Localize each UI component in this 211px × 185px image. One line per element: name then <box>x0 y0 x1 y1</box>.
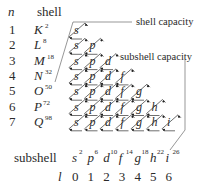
shell-capacity: 2 <box>45 22 49 30</box>
subshell-capacity: 22 <box>157 148 165 156</box>
shell-n-value: 2 <box>9 37 16 52</box>
shell-letter: P <box>33 99 42 114</box>
orbital-label: i <box>167 115 170 129</box>
subshell-column: d102 <box>103 148 118 184</box>
orbital-label: f <box>121 100 126 114</box>
orbital-label: d <box>105 84 112 98</box>
l-value: 4 <box>134 169 141 184</box>
subshell-capacity: 6 <box>95 148 99 156</box>
orbital-label: s <box>74 69 79 83</box>
orbital-grid: sspspdspdfspdfgspdfghspdfghi <box>69 23 181 131</box>
l-row-label: l <box>58 169 62 184</box>
subshell-row-label: subshell <box>14 150 57 165</box>
orbital-label: s <box>74 23 79 37</box>
orbital-label: d <box>105 115 112 129</box>
subshell-capacity: 2 <box>79 148 83 156</box>
orbital-label: f <box>121 69 126 83</box>
orbital-label: g <box>136 84 142 98</box>
subshell-letter: s <box>72 150 77 165</box>
orbital-label: p <box>89 54 96 68</box>
orbital-label: g <box>136 115 142 129</box>
l-value: 5 <box>150 169 157 184</box>
orbital-label: f <box>121 84 126 98</box>
subshell-letter: p <box>87 150 95 165</box>
orbital-label: d <box>105 54 112 68</box>
subshell-letter: f <box>119 150 125 165</box>
subshell-capacity: 10 <box>110 148 118 156</box>
subshell-column: i266 <box>166 148 181 184</box>
orbital-label: p <box>89 100 96 114</box>
l-value: 2 <box>103 169 110 184</box>
l-value: 3 <box>119 169 126 184</box>
l-value: 0 <box>72 169 79 184</box>
orbital-label: p <box>89 69 96 83</box>
shell-row: 6P72 <box>9 99 51 114</box>
subshell-footer: s20p61d102f143g184h225i266 <box>72 148 180 184</box>
shell-row: 1K2 <box>9 22 49 37</box>
shell-row: 7Q98 <box>9 114 53 129</box>
orbital-label: f <box>121 115 126 129</box>
shell-letter: M <box>33 53 46 68</box>
orbital-label: d <box>105 69 112 83</box>
shell-capacity: 98 <box>45 114 53 122</box>
subshell-column: f143 <box>119 148 134 184</box>
orbital-label: s <box>74 100 79 114</box>
shell-letter: O <box>34 83 44 98</box>
orbital-label: s <box>74 38 79 52</box>
shell-row: 4N32 <box>9 68 53 83</box>
orbital-label: p <box>89 38 96 52</box>
shell-n-value: 1 <box>9 22 16 37</box>
subshell-letter: d <box>103 150 110 165</box>
subshell-capacity: 18 <box>141 148 149 156</box>
orbital-label: s <box>74 115 79 129</box>
orbital-label: h <box>152 115 158 129</box>
l-value: 1 <box>88 169 95 184</box>
subshell-capacity: 26 <box>173 148 181 156</box>
subshell-capacity: 14 <box>126 148 134 156</box>
shell-row: 5O50 <box>9 83 53 98</box>
orbital-label: p <box>89 115 96 129</box>
orbital-label: s <box>74 54 79 68</box>
shell-n-value: 5 <box>9 83 16 98</box>
subshell-letter: h <box>150 150 157 165</box>
l-value: 6 <box>166 169 173 184</box>
shell-capacity-annotation: shell capacity <box>136 16 194 27</box>
shell-row: 3M18 <box>9 53 55 68</box>
shell-capacity: 50 <box>45 83 53 91</box>
shell-column-header: shell <box>37 4 62 19</box>
subshell-column: g184 <box>134 148 149 184</box>
shell-capacity: 32 <box>45 68 53 76</box>
orbital-label: h <box>152 100 158 114</box>
shell-n-value: 4 <box>9 68 16 83</box>
shell-capacity: 72 <box>43 99 51 107</box>
orbital-label: g <box>136 100 142 114</box>
shell-letter: K <box>33 22 44 37</box>
shell-capacity: 18 <box>47 53 55 61</box>
shell-letter: N <box>33 68 44 83</box>
shell-n-value: 3 <box>9 53 16 68</box>
subshell-letter: g <box>134 150 141 165</box>
shell-n-value: 6 <box>9 99 16 114</box>
n-column-header: n <box>8 4 15 19</box>
shell-capacity: 8 <box>43 37 47 45</box>
diagram-outline-right <box>170 60 185 150</box>
shell-n-value: 7 <box>9 114 16 129</box>
subshell-column: s20 <box>72 148 83 184</box>
subshell-capacity-annotation: subshell capacity <box>120 51 193 62</box>
madelung-aufbau-diagram: n shell 1K22L83M184N325O506P727Q98 sspsp… <box>0 0 211 185</box>
orbital-label: d <box>105 100 112 114</box>
orbital-label: s <box>74 84 79 98</box>
subshell-letter: i <box>166 150 170 165</box>
shell-letter: L <box>33 37 41 52</box>
subshell-column: h225 <box>150 148 165 184</box>
shell-rows: 1K22L83M184N325O506P727Q98 <box>9 22 55 129</box>
shell-letter: Q <box>34 114 44 129</box>
subshell-column: p61 <box>87 148 99 184</box>
orbital-label: p <box>89 84 96 98</box>
shell-row: 2L8 <box>9 37 47 52</box>
